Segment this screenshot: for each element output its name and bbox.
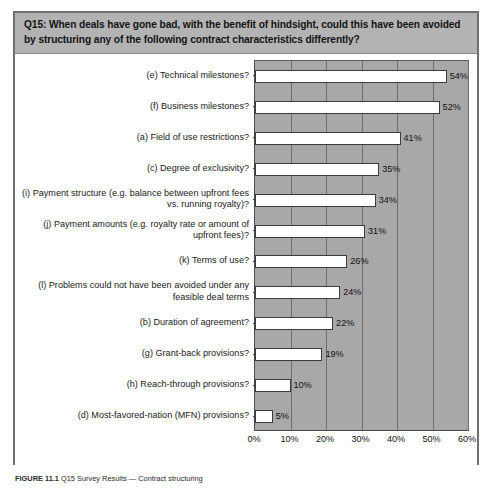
bar-value-label: 41% (404, 132, 422, 145)
x-axis-tick-label: 30% (351, 434, 369, 444)
bar-value-label: 35% (382, 163, 400, 176)
category-label: (a) Field of use restrictions? (17, 132, 249, 143)
bar (255, 410, 273, 423)
bar (255, 286, 340, 299)
bar-value-label: 52% (443, 101, 461, 114)
figure-caption-label: FIGURE 11.1 (15, 474, 59, 483)
bar (255, 317, 333, 330)
chart-body: (e) Technical milestones?(f) Business mi… (15, 54, 477, 465)
x-axis-tick-label: 60% (458, 434, 476, 444)
figure-screenshot: Q15: When deals have gone bad, with the … (0, 0, 495, 488)
category-label: (k) Terms of use? (17, 255, 249, 266)
category-label: (d) Most-favored-nation (MFN) provisions… (17, 410, 249, 421)
category-label: (h) Reach-through provisions? (17, 379, 249, 390)
bar (255, 132, 401, 145)
category-label: (l) Problems could not have been avoided… (17, 280, 249, 303)
bar (255, 225, 365, 238)
bar-value-label: 19% (325, 348, 343, 361)
bar-value-label: 22% (336, 317, 354, 330)
x-axis-tick-labels: 0%10%20%30%40%50%60% (254, 434, 484, 450)
figure-caption: FIGURE 11.1 Q15 Survey Results — Contrac… (15, 474, 475, 484)
category-label: (g) Grant-back provisions? (17, 348, 249, 359)
gridline (397, 61, 398, 430)
bar-value-label: 31% (368, 225, 386, 238)
x-axis-tick-label: 10% (280, 434, 298, 444)
bar-value-label: 10% (294, 379, 312, 392)
category-label-column: (e) Technical milestones?(f) Business mi… (17, 60, 253, 431)
gridline (326, 61, 327, 430)
category-label: (f) Business milestones? (17, 101, 249, 112)
gridline (291, 61, 292, 430)
bar (255, 379, 291, 392)
bar-value-label: 34% (379, 194, 397, 207)
plot-area: 54%52%41%35%34%31%26%24%22%19%10%5% (254, 60, 469, 431)
x-axis-tick-label: 20% (316, 434, 334, 444)
category-label: (c) Degree of exclusivity? (17, 163, 249, 174)
bar (255, 101, 440, 114)
bar (255, 348, 322, 361)
question-text: Q15: When deals have gone bad, with the … (24, 18, 468, 47)
category-label: (i) Payment structure (e.g. balance betw… (17, 188, 249, 211)
x-axis-tick-label: 40% (387, 434, 405, 444)
bar-value-label: 26% (350, 255, 368, 268)
category-label: (b) Duration of agreement? (17, 317, 249, 328)
figure-caption-text: Q15 Survey Results — Contract structurin… (61, 474, 203, 483)
bar (255, 194, 376, 207)
category-label: (e) Technical milestones? (17, 70, 249, 81)
figure-frame: Q15: When deals have gone bad, with the … (13, 11, 479, 465)
gridline (433, 61, 434, 430)
bar (255, 70, 447, 83)
gridline (468, 61, 469, 430)
gridline (362, 61, 363, 430)
bar-value-label: 54% (450, 70, 468, 83)
x-axis-tick-label: 50% (422, 434, 440, 444)
bar-value-label: 5% (276, 410, 289, 423)
bar (255, 163, 379, 176)
category-label: (j) Payment amounts (e.g. royalty rate o… (17, 219, 249, 242)
bar-value-label: 24% (343, 286, 361, 299)
bar (255, 255, 347, 268)
x-axis-tick-label: 0% (247, 434, 260, 444)
question-header-band: Q15: When deals have gone bad, with the … (15, 13, 477, 54)
